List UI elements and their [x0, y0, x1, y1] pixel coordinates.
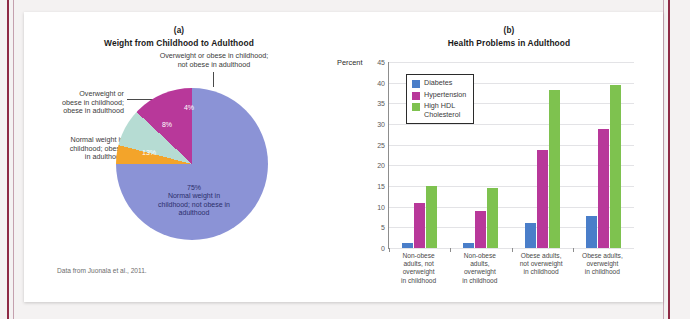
left-margin-rule [7, 0, 9, 319]
x-axis-label: Obese adults,overweightin childhood [572, 252, 633, 285]
bar-diabetes [586, 216, 597, 248]
pie-label-75pct: 75% Normal weight in childhood; not obes… [142, 184, 246, 218]
y-axis-tick-label: 40 [377, 79, 385, 86]
panel-a-title-block: (a) Weight from Childhood to Adulthood [24, 26, 334, 48]
legend-item-hypertension: Hypertension [412, 91, 466, 100]
panel-a-pie-chart: (a) Weight from Childhood to Adulthood O… [24, 12, 334, 302]
legend-swatch-icon-high-hdl [412, 103, 420, 111]
y-axis-tick-label: 45 [377, 59, 385, 66]
figure-card: (a) Weight from Childhood to Adulthood O… [24, 12, 663, 302]
y-axis-tick-label: 15 [377, 183, 385, 190]
bar-group [573, 62, 634, 248]
panel-b-letter: (b) [364, 26, 654, 37]
legend-item-high-hdl-cholesterol: High HDL Cholesterol [412, 102, 466, 119]
legend-label-hypertension: Hypertension [424, 91, 466, 100]
pie-label-13pct: 13% [135, 149, 163, 157]
legend-label-diabetes: Diabetes [424, 79, 452, 88]
pie-label-8pct: 8% [154, 121, 180, 129]
right-margin-rule-thin [663, 0, 664, 319]
left-margin-rule-thin [13, 0, 14, 319]
right-margin-rule [668, 0, 670, 319]
y-axis-tick-label: 25 [377, 141, 385, 148]
legend-swatch-icon-hypertension [412, 92, 420, 100]
bar-diabetes [525, 223, 536, 248]
x-axis-labels: Non-obeseadults, notoverweightin childho… [388, 252, 633, 285]
bar-group [512, 62, 573, 248]
legend-label-high-hdl: High HDL Cholesterol [424, 102, 460, 119]
legend-swatch-icon-diabetes [412, 80, 420, 88]
bar-hypertension [537, 150, 548, 248]
panel-a-letter: (a) [24, 26, 334, 37]
pie-label-4pct: 4% [176, 104, 202, 112]
bar-hypertension [414, 203, 425, 248]
panel-b-bar-chart: (b) Health Problems in Adulthood Percent… [334, 12, 663, 302]
callout-overweight-not-obese: Overweight or obese in childhood; not ob… [129, 52, 299, 69]
y-axis-title: Percent [337, 58, 362, 67]
leader-line-top [213, 72, 214, 87]
callout-overweight-obese: Overweight or obese in childhood; obese … [42, 90, 124, 116]
source-note: Data from Juonala et al., 2011. [57, 267, 147, 274]
y-axis-tick-label: 30 [377, 121, 385, 128]
pie-chart: 4% 8% 13% 75% Normal weight in childhood… [116, 88, 268, 240]
bar-high-hdl-cholesterol [487, 188, 498, 248]
y-axis-tick-label: 20 [377, 162, 385, 169]
x-axis-label: Non-obeseadults,overweightin childhood [449, 252, 510, 285]
y-axis-tick-label: 0 [381, 245, 385, 252]
panel-b-title: Health Problems in Adulthood [448, 38, 571, 48]
callout-normal-obese: Normal weight in childhood; obese in adu… [34, 136, 124, 162]
legend-item-diabetes: Diabetes [412, 79, 466, 88]
y-axis-tick-label: 35 [377, 100, 385, 107]
figure-page: (a) Weight from Childhood to Adulthood O… [0, 0, 690, 319]
bar-hypertension [598, 129, 609, 248]
bar-diabetes [463, 243, 474, 248]
bar-hypertension [475, 211, 486, 248]
bar-high-hdl-cholesterol [549, 90, 560, 248]
panel-b-title-block: (b) Health Problems in Adulthood [364, 26, 654, 48]
x-axis-label: Obese adults,not overweightin childhood [511, 252, 572, 285]
bar-high-hdl-cholesterol [610, 85, 621, 248]
y-axis-tick-label: 10 [377, 203, 385, 210]
bar-high-hdl-cholesterol [426, 186, 437, 248]
y-axis-tick-label: 5 [381, 224, 385, 231]
bar-diabetes [402, 243, 413, 248]
x-axis-label: Non-obeseadults, notoverweightin childho… [388, 252, 449, 285]
panel-a-title: Weight from Childhood to Adulthood [104, 38, 254, 48]
chart-legend: Diabetes Hypertension High HDL Cholester… [406, 74, 474, 124]
